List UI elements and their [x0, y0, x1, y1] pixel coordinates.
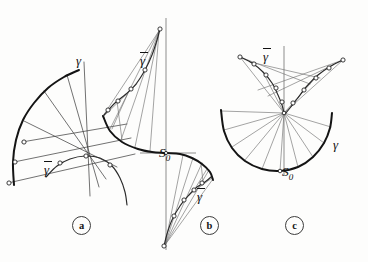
label-subscript: 0 [166, 153, 171, 163]
panel-tag-a: a [72, 216, 91, 235]
chord-line [268, 65, 333, 96]
curve-point-marker [106, 108, 110, 112]
tangent-fan-line [165, 163, 202, 245]
label-glyph: S [159, 145, 166, 160]
cusp-point [282, 111, 286, 115]
chord-line [258, 60, 343, 90]
tangent-fan-line [110, 31, 159, 129]
figure-drawing [0, 0, 368, 262]
tangent-fan-line [103, 31, 159, 116]
curve-point-marker [129, 87, 133, 91]
normal-fan-line [245, 113, 284, 160]
label-s0-c: S0 [282, 165, 293, 182]
panel-a-drawing [7, 62, 135, 205]
normal-fan-line [232, 113, 284, 147]
curve-point-marker [280, 100, 284, 104]
curve-point-marker [172, 214, 176, 218]
curve-point-marker [274, 86, 278, 90]
curve-point-marker [58, 161, 62, 165]
figure-container: γγγγS0γγS0 abc [0, 0, 368, 262]
label-glyph: γ [263, 49, 268, 64]
normal-fan-line [284, 113, 313, 157]
label-glyph: γ [140, 53, 145, 68]
tangent-fan-line [201, 163, 203, 182]
curve-point-marker [84, 154, 88, 158]
curve-point-marker [264, 73, 268, 77]
curve-point-marker [192, 188, 196, 192]
curve-point-marker [116, 99, 120, 103]
normal-fan-line [224, 113, 284, 130]
normal-fan-line [284, 113, 331, 127]
curve-gamma [221, 110, 332, 171]
label-glyph: γ [197, 189, 202, 204]
label-glyph: γ [333, 137, 338, 152]
curve-point-marker [252, 62, 256, 66]
curve-point-marker [291, 101, 295, 105]
label-gammabar-c: γ [263, 48, 271, 63]
curve-point-marker [182, 198, 186, 202]
label-glyph: γ [76, 53, 81, 68]
label-s0-b: S0 [159, 146, 170, 163]
curve-point-marker [143, 68, 147, 72]
label-gammabar-a: γ [44, 161, 52, 176]
panel-tag-c: c [285, 216, 304, 235]
panel-b-drawing [103, 18, 213, 250]
panel-tag-b: b [200, 216, 219, 235]
curve-point-marker [158, 27, 162, 31]
curve-point-marker [238, 55, 242, 59]
curve-point-marker [341, 58, 345, 62]
label-gammabar-b-bottom: γ [197, 188, 205, 203]
curve-point-marker [7, 181, 11, 185]
normal-fan-line [284, 113, 324, 143]
curve-point-marker [314, 76, 318, 80]
tangent-fan-line [165, 179, 213, 245]
label-gammabar-b-top: γ [140, 52, 148, 67]
curve-point-marker [200, 181, 204, 185]
curve-point-marker [108, 163, 112, 167]
curve-point-marker [22, 140, 26, 144]
panel-c-drawing [221, 46, 345, 175]
normal-fan-line [263, 72, 284, 113]
curve-point-marker [13, 160, 17, 164]
tangent-fan-line [165, 158, 193, 245]
tangent-line [84, 62, 90, 196]
normal-fan-line [284, 113, 298, 167]
label-glyph: γ [44, 162, 49, 177]
curve-point-marker [302, 88, 306, 92]
normal-fan-line [221, 111, 284, 113]
label-gamma-a: γ [76, 54, 81, 67]
label-subscript: 0 [289, 172, 294, 182]
curve-point-marker [162, 244, 166, 248]
curve-point-marker [327, 66, 331, 70]
label-glyph: S [282, 164, 289, 179]
label-gamma-c: γ [333, 138, 338, 151]
